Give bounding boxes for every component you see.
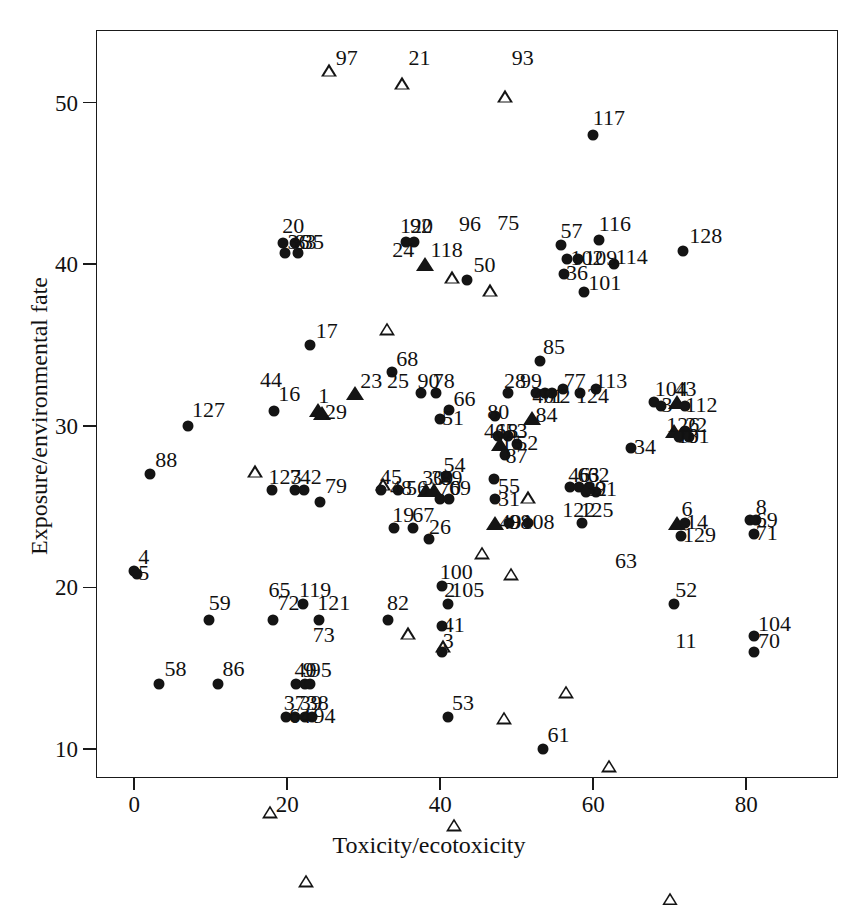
x-axis-tick (745, 778, 747, 790)
point-label: 108 (522, 511, 555, 533)
x-axis-tick-label: 20 (276, 793, 299, 816)
y-axis-tick (83, 587, 96, 589)
y-axis-tick-label: 50 (40, 91, 78, 114)
y-axis-tick-label: 10 (40, 737, 78, 760)
data-point-open-triangle (444, 271, 460, 284)
point-label: 59 (209, 592, 231, 614)
data-point-filled-circle (144, 469, 155, 480)
x-axis-tick (133, 778, 135, 790)
point-label: 81 (688, 425, 710, 447)
point-label: 5 (138, 562, 149, 584)
data-point-open-triangle (298, 875, 314, 888)
data-point-open-triangle (394, 77, 410, 90)
point-label: 3 (443, 630, 454, 652)
data-point-open-triangle (558, 685, 574, 698)
data-point-filled-circle (269, 406, 280, 417)
point-label: 50 (473, 254, 495, 276)
x-axis-tick-label: 80 (735, 793, 758, 816)
point-label: 95 (310, 659, 332, 681)
data-point-filled-circle (154, 679, 165, 690)
point-label: 87 (506, 445, 528, 467)
data-point-open-triangle (503, 567, 519, 580)
point-label: 21 (408, 47, 430, 69)
point-label: 121 (317, 592, 350, 614)
point-label: 71 (756, 522, 778, 544)
data-point-open-triangle (474, 546, 490, 559)
data-point-open-triangle (601, 760, 617, 773)
y-axis-title: Exposure/environmental fate (27, 181, 51, 651)
point-label: 116 (599, 213, 631, 235)
point-label: 29 (325, 401, 347, 423)
point-label: 82 (387, 592, 409, 614)
point-label: 42 (300, 466, 322, 488)
point-label: 93 (512, 47, 534, 69)
point-label: 73 (313, 624, 335, 646)
data-point-filled-circle (678, 246, 689, 257)
point-label: 19 (392, 504, 414, 526)
point-label: 79 (325, 475, 347, 497)
data-point-open-triangle (400, 627, 416, 640)
data-point-open-triangle (497, 90, 513, 103)
data-point-filled-circle (383, 614, 394, 625)
data-point-open-triangle (662, 892, 678, 905)
point-label: 16 (278, 383, 300, 405)
data-point-open-triangle (379, 323, 395, 336)
data-point-filled-circle (315, 496, 326, 507)
point-label: 129 (683, 524, 716, 546)
data-point-open-triangle (496, 711, 512, 724)
point-label: 86 (223, 658, 245, 680)
x-axis-tick (439, 778, 441, 790)
point-label: 72 (278, 592, 300, 614)
point-label: 63 (615, 550, 637, 572)
point-label: 114 (616, 246, 648, 268)
point-label: 97 (336, 47, 358, 69)
point-label: 109 (584, 247, 617, 269)
point-label: 127 (192, 399, 225, 421)
y-axis-tick (83, 263, 96, 265)
point-label: 57 (561, 220, 583, 242)
point-label: 23 (360, 370, 382, 392)
point-label: 51 (442, 407, 464, 429)
data-point-filled-circle (462, 275, 473, 286)
point-label: 17 (316, 320, 338, 342)
data-point-open-triangle (482, 284, 498, 297)
point-label: 69 (449, 477, 471, 499)
data-point-open-triangle (247, 465, 263, 478)
point-label: 61 (548, 724, 570, 746)
x-axis-tick-label: 60 (582, 793, 605, 816)
data-point-filled-circle (268, 614, 279, 625)
point-label: 117 (593, 107, 625, 129)
x-axis-tick-label: 0 (128, 793, 140, 816)
point-label: 78 (433, 370, 455, 392)
point-label: 31 (498, 488, 520, 510)
x-axis-tick (286, 778, 288, 790)
point-label: 118 (431, 239, 463, 261)
point-label: 94 (314, 705, 336, 727)
point-label: 25 (387, 370, 409, 392)
point-label: 84 (535, 404, 557, 426)
point-label: 52 (675, 579, 697, 601)
point-label: 35 (302, 231, 324, 253)
point-label: 34 (634, 436, 656, 458)
point-label: 96 (459, 213, 481, 235)
point-label: 92 (410, 215, 432, 237)
point-label: 11 (675, 630, 696, 652)
point-label: 53 (452, 692, 474, 714)
x-axis-title: Toxicity/ecotoxicity (0, 833, 858, 857)
point-label: 124 (576, 385, 609, 407)
y-axis-tick (83, 102, 96, 104)
data-point-filled-circle (593, 235, 604, 246)
point-label: 101 (588, 272, 621, 294)
data-point-filled-circle (204, 614, 215, 625)
point-label: 125 (581, 499, 614, 521)
point-label: 85 (543, 336, 565, 358)
data-point-filled-circle (588, 130, 599, 141)
x-axis-tick-label: 40 (429, 793, 452, 816)
point-label: 105 (451, 579, 484, 601)
point-label: 24 (392, 239, 414, 261)
point-label: 75 (497, 212, 519, 234)
data-point-open-triangle (520, 491, 536, 504)
point-label: 88 (155, 449, 177, 471)
x-axis-tick (592, 778, 594, 790)
